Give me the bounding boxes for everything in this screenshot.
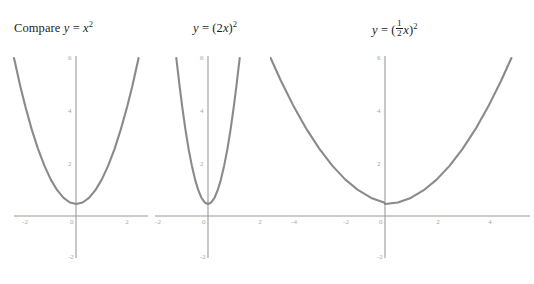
chart-panel-1: Compare y = x2 -2 0 2 6 4 2 -2: [0, 0, 152, 284]
y-tick-label-2-4: 4: [200, 108, 204, 115]
x-tick-label-3-zero: 0: [379, 219, 383, 226]
x-tick-label-1-0: -2: [22, 219, 28, 226]
x-tick-label-1-2: 2: [125, 219, 129, 226]
x-tick-label-3-neg4: -4: [291, 219, 297, 226]
chart-title-3-denominator: 2: [396, 29, 403, 38]
plot-svg-2: [152, 45, 270, 284]
chart-title-1: Compare y = x2: [14, 21, 93, 36]
y-tick-label-3-2: 2: [377, 161, 381, 168]
x-tick-label-2-2: 2: [258, 219, 262, 226]
chart-panel-3: y = (12x)2 -4 -2 0 2 4 6 4 2 -2: [270, 0, 534, 284]
chart-title-3-equals: =: [381, 23, 388, 37]
y-tick-label-2-neg2: -2: [200, 254, 206, 261]
x-tick-label-2-1: 0: [202, 219, 206, 226]
x-tick-label-2-0: -2: [155, 219, 161, 226]
plot-svg-1: [0, 45, 152, 284]
y-tick-label-1-4: 4: [68, 108, 72, 115]
y-tick-label-2-6: 6: [200, 55, 204, 62]
figure-canvas: Compare y = x2 -2 0 2 6 4 2 -2 y =: [0, 0, 534, 284]
chart-title-1-y: y: [64, 21, 70, 35]
chart-title-2-y: y: [193, 21, 199, 35]
chart-title-3: y = (12x)2: [372, 19, 418, 39]
y-tick-label-2-2: 2: [200, 161, 204, 168]
plot-area-2: [152, 45, 270, 284]
x-tick-label-3-pos2: 2: [436, 219, 440, 226]
x-tick-label-3-pos4: 4: [488, 219, 492, 226]
curve-3: [271, 58, 512, 204]
chart-title-2: y = (2x)2: [193, 21, 237, 36]
chart-title-3-fraction: 12: [396, 19, 403, 39]
chart-title-2-exponent: 2: [233, 19, 237, 29]
y-tick-label-1-2: 2: [68, 161, 72, 168]
x-tick-label-3-neg2: -2: [343, 219, 349, 226]
chart-title-2-open: (2: [212, 21, 223, 35]
chart-title-3-exponent: 2: [413, 21, 417, 31]
chart-title-3-y: y: [372, 23, 378, 37]
y-tick-label-3-neg2: -2: [377, 254, 383, 261]
plot-area-3: [270, 45, 534, 284]
chart-title-1-prefix: Compare: [14, 21, 61, 35]
y-tick-label-3-6: 6: [377, 55, 381, 62]
y-tick-label-3-4: 4: [377, 108, 381, 115]
x-tick-label-1-1: 0: [70, 219, 74, 226]
y-tick-label-1-6: 6: [68, 55, 72, 62]
chart-panel-2: y = (2x)2 -2 0 2 6 4 2 -2: [152, 0, 270, 284]
y-tick-label-1-neg2: -2: [68, 254, 74, 261]
chart-title-1-exponent: 2: [89, 19, 93, 29]
plot-svg-3: [270, 45, 534, 284]
chart-title-3-open: (: [391, 23, 395, 37]
plot-area-1: [0, 45, 152, 284]
chart-title-2-equals: =: [202, 21, 209, 35]
chart-title-1-equals: =: [73, 21, 80, 35]
